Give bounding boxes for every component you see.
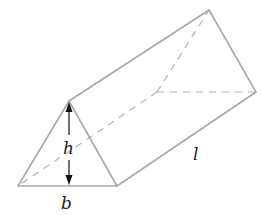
- height-arrow-down-icon: [66, 175, 73, 185]
- height-arrow-up-icon: [66, 102, 73, 112]
- top-edge: [69, 10, 209, 101]
- hidden-edge-back-left-to-front-left: [18, 92, 157, 186]
- base-label: b: [61, 193, 72, 213]
- hidden-edge-back-left-to-back-apex: [157, 10, 209, 92]
- visible-edges: [18, 10, 256, 186]
- bottom-right-edge: [117, 92, 256, 186]
- height-label: h: [63, 138, 74, 158]
- hidden-edges: [18, 10, 256, 186]
- length-label: l: [193, 144, 198, 164]
- back-right-edge: [209, 10, 256, 92]
- triangular-prism-diagram: h b l: [0, 0, 262, 215]
